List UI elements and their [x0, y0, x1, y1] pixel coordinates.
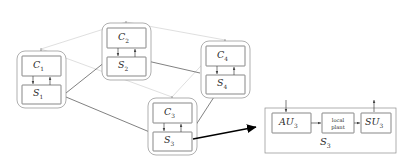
cluster-2[interactable]	[102, 23, 151, 80]
cluster-4[interactable]	[201, 41, 250, 98]
detail-block-su	[361, 113, 391, 133]
detail-label-plant: local plant	[322, 117, 354, 130]
detail-block-au	[272, 113, 311, 133]
subsystem-node-4	[206, 75, 245, 94]
controller-node-2	[107, 28, 146, 48]
subsystem-node-1	[22, 85, 61, 104]
controller-node-1	[22, 56, 61, 76]
subsystem-node-2	[107, 57, 146, 76]
controller-node-4	[206, 46, 245, 66]
diagram-svg	[0, 0, 401, 160]
figure-canvas: C1 S1 C2 S2 C3 S3 C4 S4 AU3 local plant …	[0, 0, 401, 160]
cluster-3[interactable]	[148, 98, 197, 155]
zoom-pointer-arrow	[193, 127, 256, 139]
controller-node-3	[153, 103, 192, 123]
subsystem-node-3	[153, 132, 192, 151]
cluster-1[interactable]	[17, 51, 66, 108]
